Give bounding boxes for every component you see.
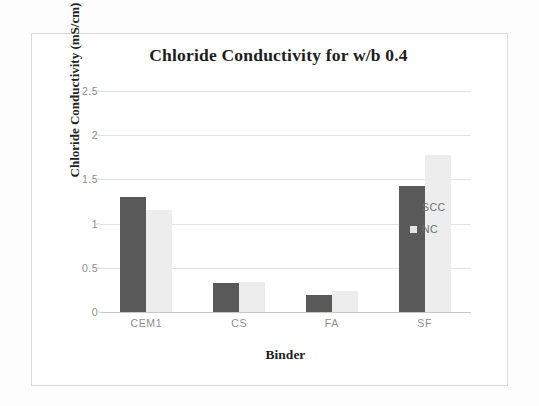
page-background: Chloride Conductivity for w/b 0.4 Chlori… <box>0 0 539 406</box>
x-axis-tick-label: CEM1 <box>131 317 163 329</box>
bar-scc-fa <box>306 295 332 312</box>
legend-swatch-nc-icon <box>410 226 417 233</box>
x-axis-tick-labels: CEM1CSFASF <box>100 317 471 335</box>
chart-frame: Chloride Conductivity for w/b 0.4 Chlori… <box>31 33 508 386</box>
bar-group <box>120 91 172 312</box>
bar-nc-cem1 <box>146 210 172 312</box>
x-axis-tick-label: FA <box>325 317 339 329</box>
legend-label: NC <box>422 223 438 235</box>
legend-item-nc[interactable]: NC <box>410 218 446 240</box>
chart-title: Chloride Conductivity for w/b 0.4 <box>32 45 507 66</box>
bar-nc-fa <box>332 291 358 312</box>
legend-label: SCC <box>422 201 446 213</box>
x-axis-tick-label: SF <box>417 317 432 329</box>
y-axis-tick-labels: 00.511.522.5 <box>62 91 98 312</box>
bar-scc-cs <box>213 283 239 312</box>
x-axis-tick-label: CS <box>231 317 247 329</box>
legend-swatch-scc-icon <box>410 204 417 211</box>
bar-group <box>306 91 358 312</box>
axis-baseline <box>100 312 471 313</box>
bar-scc-cem1 <box>120 197 146 312</box>
chart-legend: SCCNC <box>410 196 446 240</box>
legend-item-scc[interactable]: SCC <box>410 196 446 218</box>
bar-group <box>213 91 265 312</box>
bar-nc-cs <box>239 282 265 312</box>
x-axis-title: Binder <box>100 347 471 363</box>
